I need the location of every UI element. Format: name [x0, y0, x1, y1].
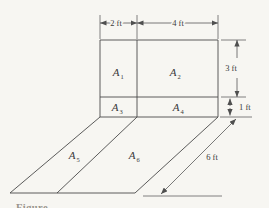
area-diagram-canvas: 2 ft 4 ft 3 ft 1 ft 6 ft A 1 A 2 A 3 A 4… — [0, 0, 269, 208]
figure-diagram: 2 ft 4 ft 3 ft 1 ft 6 ft A 1 A 2 A 3 A 4… — [0, 0, 269, 208]
perspective-parallelogram — [10, 117, 218, 193]
area-label-a2-sub: 2 — [178, 73, 181, 80]
area-label-a4-sub: 4 — [181, 108, 185, 115]
area-label-a2-base: A — [169, 66, 177, 78]
area-label-a3-base: A — [111, 101, 119, 113]
dimension-label-2ft: 2 ft — [110, 18, 122, 28]
area-label-a6-sub: 6 — [137, 156, 141, 163]
area-label-a5-sub: 5 — [77, 156, 80, 163]
area-label-a5-base: A — [68, 149, 76, 161]
area-label-a1-sub: 1 — [121, 73, 124, 80]
dimension-label-4ft: 4 ft — [172, 18, 184, 28]
dimension-label-6ft: 6 ft — [206, 152, 218, 162]
figure-caption: Figure — [16, 202, 48, 208]
area-label-a6-base: A — [128, 149, 136, 161]
dimension-line-6ft — [161, 119, 236, 194]
floor-left-edge — [10, 117, 100, 193]
area-label-a1-base: A — [112, 66, 120, 78]
dimension-label-1ft: 1 ft — [239, 102, 251, 112]
dimension-label-3ft: 3 ft — [225, 63, 237, 73]
area-label-a4-base: A — [172, 101, 180, 113]
area-labels: A 1 A 2 A 3 A 4 A 5 A 6 — [68, 66, 185, 163]
area-label-a3-sub: 3 — [120, 108, 123, 115]
